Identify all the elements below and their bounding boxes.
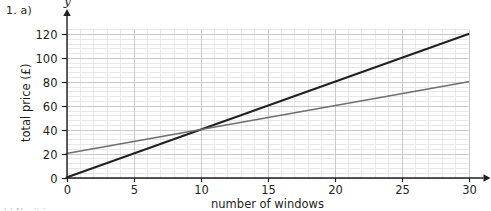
y-tick-label: 100 <box>36 52 58 66</box>
x-tick-label: 20 <box>328 183 343 197</box>
y-tick-label: 60 <box>43 100 58 114</box>
x-tick-label: 0 <box>64 183 71 197</box>
y-tick-label: 40 <box>43 124 58 138</box>
data-series-group <box>67 34 469 178</box>
x-tick-label: 10 <box>194 183 209 197</box>
series-line-b <box>67 82 469 154</box>
y-tick-label: 80 <box>43 76 58 90</box>
series-line-a <box>67 34 469 178</box>
x-tick-label: 30 <box>462 183 477 197</box>
axis-ticks <box>62 35 470 183</box>
y-axis-title: total price (£) <box>19 63 33 142</box>
x-axis-title: number of windows <box>211 197 324 211</box>
bottom-partial-text: b) No, it is... <box>4 207 59 210</box>
chart-canvas: 051015202530020406080100120 x y number o… <box>0 0 491 210</box>
x-tick-label: 5 <box>131 183 138 197</box>
y-tick-label: 120 <box>36 28 58 42</box>
y-tick-label: 20 <box>43 148 58 162</box>
y-tick-label: 0 <box>50 172 57 186</box>
line-chart-figure: 051015202530020406080100120 x y number o… <box>0 0 491 210</box>
x-tick-label: 25 <box>395 183 410 197</box>
y-axis-variable-label: y <box>63 0 72 8</box>
x-tick-label: 15 <box>261 183 276 197</box>
